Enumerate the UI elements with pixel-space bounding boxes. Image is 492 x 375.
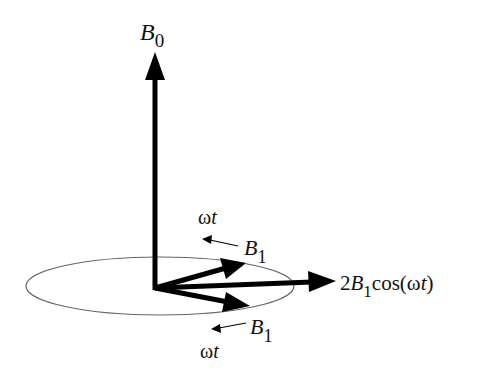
rotating-field-diagram: B0 ωt B1 B1 ωt 2B1cos(ωt): [0, 0, 492, 375]
rotation-arrow-upper-icon: [202, 235, 238, 246]
resultant-label: 2B1cos(ωt): [340, 271, 434, 301]
omega-t-lower-label: ωt: [200, 340, 219, 362]
b0-vector: [145, 52, 165, 290]
rotation-arrow-lower-icon: [211, 323, 246, 333]
b1-lower-label: B1: [250, 314, 272, 346]
omega-t-upper-label: ωt: [198, 206, 217, 228]
b0-label: B0: [140, 19, 164, 51]
b1-lower-vector: [155, 288, 250, 312]
b1-upper-label: B1: [244, 235, 266, 267]
